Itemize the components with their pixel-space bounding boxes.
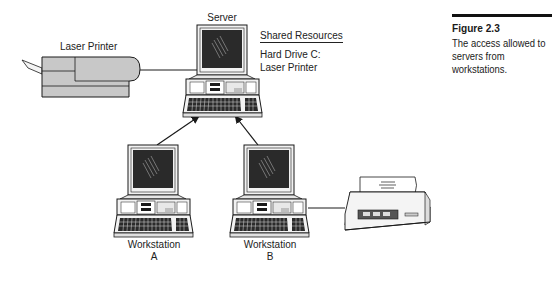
local-printer-icon — [345, 177, 430, 230]
shared-resource-item: Laser Printer — [260, 62, 317, 73]
shared-resources-heading: Shared Resources — [260, 30, 343, 41]
workstation-b-label-line1: Workstation — [244, 239, 297, 251]
workstation-a-label-line2: A — [128, 251, 181, 263]
workstation-b-computer-icon — [230, 145, 309, 237]
shared-resources-heading-text: Shared Resources — [260, 30, 343, 43]
workstation-a-computer-icon — [114, 145, 193, 237]
workstation-a-label-line1: Workstation — [128, 239, 181, 251]
server-label: Server — [207, 12, 236, 23]
shared-resource-item: Hard Drive C: — [260, 49, 321, 60]
figure-caption: Figure 2.3 The access allowed to servers… — [452, 14, 552, 76]
edge-workstation-a-server-arrow — [157, 117, 198, 145]
figure-caption-text: The access allowed to servers from works… — [452, 37, 552, 76]
laser-printer-icon — [22, 57, 140, 97]
laser-printer-label: Laser Printer — [60, 41, 117, 52]
server-computer-icon — [183, 25, 262, 117]
workstation-a-label: Workstation A — [128, 239, 181, 263]
edge-workstation-b-server-arrow — [236, 117, 258, 145]
workstation-b-label-line2: B — [244, 251, 297, 263]
workstation-b-label: Workstation B — [244, 239, 297, 263]
caption-rule — [452, 14, 552, 17]
figure-number: Figure 2.3 — [452, 22, 540, 34]
